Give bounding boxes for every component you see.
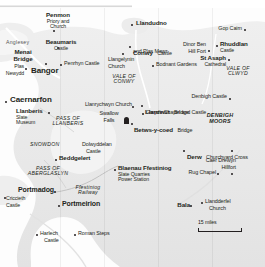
place-sub-swallow-falls: Falls (92, 118, 126, 124)
region-label-anglesey: Anglesey (6, 40, 29, 45)
region-label-ffestiniog-railway: Ffestiniog Railway (66, 185, 110, 196)
place-label-menai-bridge: Menai Bridge (2, 49, 44, 62)
place-label-betws-y-coed: Betws-y-coed Bridge (134, 119, 192, 136)
place-sub-harlech: Castle (44, 238, 59, 244)
scale-tick-start (198, 228, 199, 232)
place-label-gop-cairn: Gop Cairn (196, 26, 242, 32)
place-label-llandudno: Llandudno (136, 20, 167, 27)
place-label-caer-drewyn: Caer Drewyn (192, 158, 236, 164)
scale-label: 15 miles (198, 220, 217, 225)
place-label-swallow-falls: Swallow (92, 111, 126, 117)
place-label-criccieth: Criccieth (6, 196, 25, 201)
region-label-pass-of-aberglaslyn: PASS OF ABERGLASLYN (20, 166, 76, 177)
place-sub-beaumaris: Castle (37, 46, 85, 51)
place-label-llanrychwyn: Llanrychwyn Church (72, 102, 132, 108)
scale-tick-end (241, 228, 242, 232)
place-label-plas-newydd: Plas (0, 64, 24, 69)
place-sub-blaenau: Slate Quarries Power Station (118, 172, 150, 183)
place-label-llangelynin: Llangelynin (108, 57, 134, 63)
region-label-vale-of-clwyd: VALE OF CLWYD (218, 66, 258, 77)
region-label-snowdon: SNOWDON (30, 142, 59, 147)
region-label-vale-of-conwy: VALE OF CONWY (106, 74, 142, 85)
place-name-betws-y-coed: Betws-y-coed (134, 126, 173, 133)
place-label-roman-steps: Roman Steps (78, 231, 110, 237)
place-label-bala: Bala (168, 202, 190, 209)
place-sub-llangelynin: Church (108, 64, 125, 70)
place-label-dolwyddelan: Dolwyddelan (82, 142, 112, 148)
place-label-beddgelert: Beddgelert (59, 155, 90, 162)
place-label-dinas-bran: Dinor Ben (160, 42, 206, 48)
place-label-llandderfel: Llandderfel (205, 199, 231, 205)
place-sub-rhuddlan: Castle (220, 48, 234, 53)
place-sub-plas-newydd: Newydd (0, 71, 24, 76)
place-label-bangor: Bangor (31, 67, 58, 75)
place-sub-llandderfel: Church (209, 206, 226, 212)
place-sub-dinas-bran: Hill Fort (160, 49, 206, 55)
place-sub-llanberis: Slate Museum (16, 115, 35, 126)
north-wales-map: Penmon Priory and Church Llandudno Beaum… (0, 0, 265, 267)
scale-bar (198, 231, 242, 232)
place-label-portmeirion: Portmeirion (62, 200, 100, 207)
place-label-rug-chapel: Rug Chapel (172, 170, 216, 176)
top-rule (0, 6, 132, 8)
place-sub-criccieth: Castle (6, 203, 20, 208)
region-label-denbigh-moors: DENBIGH MOORS (196, 113, 244, 124)
place-label-harlech: Harlech (40, 231, 58, 237)
place-label-portmadog: Portmadog (18, 186, 54, 193)
place-label-denbigh-castle: Denbigh Castle (175, 94, 227, 100)
place-label-penrhyn-castle: Penrhyn Castle (64, 61, 99, 67)
place-label-caernarfon: Caernarfon (10, 96, 52, 104)
place-sub-penmon: Priory and Church (32, 19, 84, 30)
region-label-pass-of-llanberis: PASS OF LLANBERIS (46, 116, 90, 127)
place-sub-betws-y-coed: Bridge (177, 127, 192, 133)
